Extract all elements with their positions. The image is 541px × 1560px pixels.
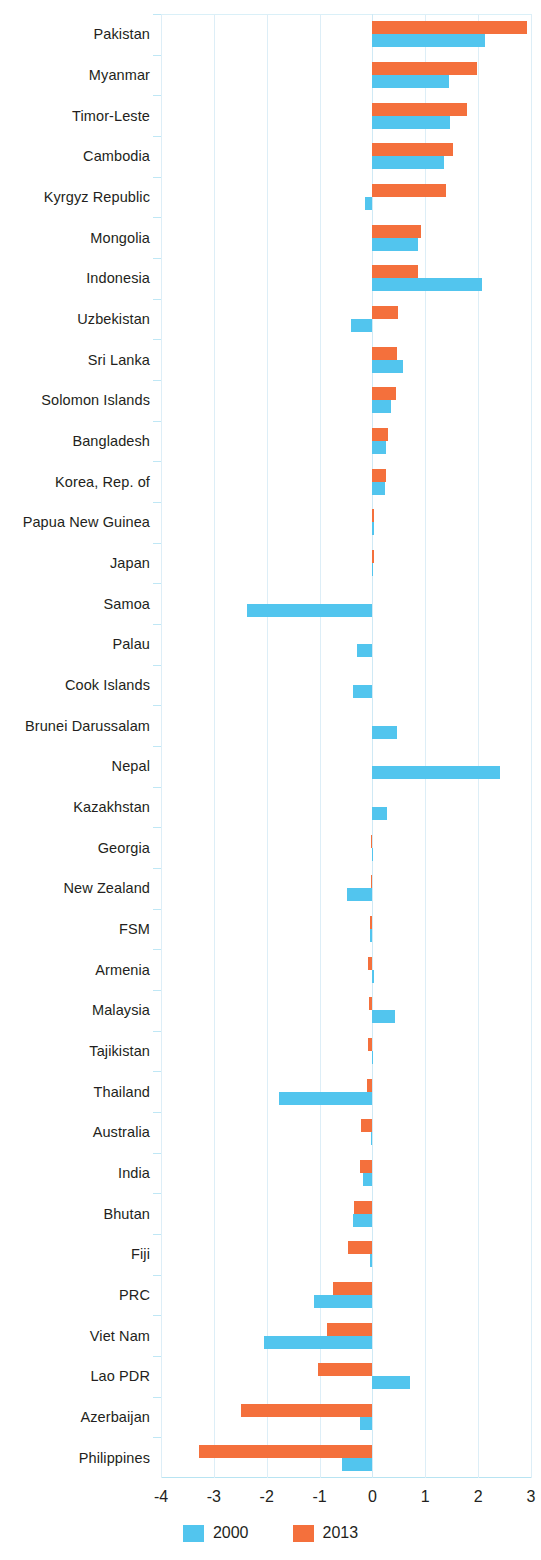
bar-2000 xyxy=(372,807,386,820)
bar-2000 xyxy=(372,441,386,454)
bar-2013 xyxy=(372,184,445,197)
category-label: Solomon Islands xyxy=(41,393,150,408)
category-label: Viet Nam xyxy=(90,1329,150,1344)
category-label: Australia xyxy=(93,1125,150,1140)
bar-2013 xyxy=(368,957,373,970)
bar-2013 xyxy=(369,997,373,1010)
x-tick-label: 3 xyxy=(527,1488,536,1506)
x-tick-label: -3 xyxy=(207,1488,221,1506)
category-label: Kazakhstan xyxy=(73,800,150,815)
category-label: Bhutan xyxy=(103,1207,150,1222)
bar-2013 xyxy=(368,1038,372,1051)
plot-area xyxy=(161,14,531,1478)
bar-2000 xyxy=(370,1254,373,1267)
row-tick xyxy=(153,1234,161,1235)
category-label: Georgia xyxy=(98,841,150,856)
row-tick xyxy=(153,949,161,950)
category-label: Brunei Darussalam xyxy=(25,719,150,734)
category-label: Myanmar xyxy=(89,68,150,83)
bar-2000 xyxy=(351,319,373,332)
bar-row xyxy=(161,1356,531,1397)
category-label: Sri Lanka xyxy=(88,353,150,368)
category-label: Uzbekistan xyxy=(77,312,150,327)
bar-row xyxy=(161,461,531,502)
bar-2000 xyxy=(279,1092,373,1105)
row-tick xyxy=(153,1031,161,1032)
bar-row xyxy=(161,217,531,258)
bar-row xyxy=(161,339,531,380)
category-label: Korea, Rep. of xyxy=(55,475,150,490)
row-tick xyxy=(153,1437,161,1438)
row-tick xyxy=(153,1356,161,1357)
category-label: Indonesia xyxy=(86,271,150,286)
row-tick xyxy=(153,1112,161,1113)
bar-2013 xyxy=(372,347,397,360)
bar-row xyxy=(161,543,531,584)
category-label: Samoa xyxy=(104,597,150,612)
bar-2013 xyxy=(372,103,467,116)
bar-row xyxy=(161,1031,531,1072)
legend-item[interactable]: 2000 xyxy=(183,1524,249,1542)
bar-2013 xyxy=(241,1404,372,1417)
bar-2013 xyxy=(372,387,396,400)
bar-2000 xyxy=(353,1214,372,1227)
category-label: Pakistan xyxy=(94,27,150,42)
row-tick xyxy=(153,827,161,828)
bar-2013 xyxy=(372,265,418,278)
bar-2013 xyxy=(372,21,527,34)
x-tick-label: -2 xyxy=(260,1488,274,1506)
row-tick xyxy=(153,380,161,381)
row-tick xyxy=(153,909,161,910)
bar-2000 xyxy=(372,116,450,129)
bar-row xyxy=(161,14,531,55)
bar-2013 xyxy=(372,62,477,75)
category-label: PRC xyxy=(119,1288,150,1303)
bar-row xyxy=(161,136,531,177)
row-tick xyxy=(153,421,161,422)
category-label: Kyrgyz Republic xyxy=(44,190,150,205)
bar-2013 xyxy=(372,306,398,319)
row-tick xyxy=(153,1397,161,1398)
bar-row xyxy=(161,746,531,787)
legend-swatch-2000 xyxy=(183,1525,204,1542)
bar-2000 xyxy=(372,766,500,779)
row-tick xyxy=(153,583,161,584)
bar-2000 xyxy=(360,1417,372,1430)
category-label: Malaysia xyxy=(92,1003,150,1018)
bar-row xyxy=(161,949,531,990)
category-label: Cook Islands xyxy=(65,678,150,693)
bar-row xyxy=(161,990,531,1031)
bar-2000 xyxy=(264,1336,372,1349)
row-tick xyxy=(153,1071,161,1072)
row-tick xyxy=(153,1275,161,1276)
bar-2013 xyxy=(372,550,374,563)
category-label: Azerbaijan xyxy=(80,1410,150,1425)
x-tick-label: -1 xyxy=(312,1488,326,1506)
bar-row xyxy=(161,705,531,746)
bar-2000 xyxy=(370,929,372,942)
row-tick xyxy=(153,14,161,15)
bar-2013 xyxy=(354,1201,373,1214)
bar-row xyxy=(161,421,531,462)
bar-row xyxy=(161,258,531,299)
category-label: Tajikistan xyxy=(89,1044,150,1059)
bar-2013 xyxy=(327,1323,372,1336)
bar-row xyxy=(161,624,531,665)
category-label: Cambodia xyxy=(83,149,150,164)
category-label: Armenia xyxy=(95,963,150,978)
bar-2000 xyxy=(372,970,374,983)
bar-row xyxy=(161,1193,531,1234)
bar-2013 xyxy=(199,1445,372,1458)
gridline-3 xyxy=(531,14,532,1478)
legend-item[interactable]: 2013 xyxy=(293,1524,359,1542)
bar-2013 xyxy=(372,143,452,156)
bar-2000 xyxy=(247,604,373,617)
category-label: India xyxy=(118,1166,150,1181)
row-tick xyxy=(153,177,161,178)
bar-row xyxy=(161,827,531,868)
bar-2000 xyxy=(372,848,373,861)
bar-2013 xyxy=(348,1241,373,1254)
category-label: Philippines xyxy=(79,1451,150,1466)
bar-row xyxy=(161,177,531,218)
bar-2000 xyxy=(365,197,373,210)
